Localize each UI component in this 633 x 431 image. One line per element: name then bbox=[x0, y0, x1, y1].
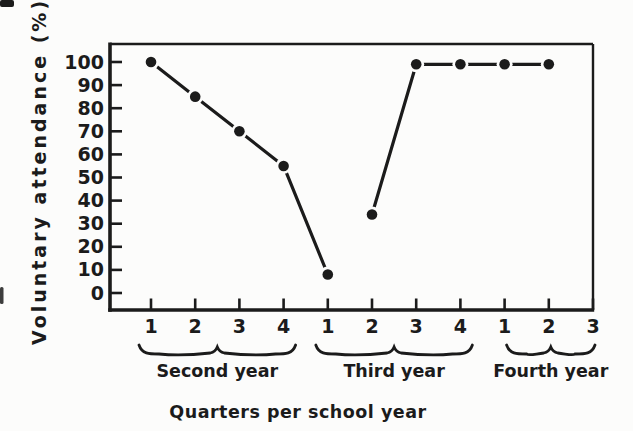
y-tick-label: 20 bbox=[78, 235, 104, 257]
y-axis-title: Voluntary attendance (%) bbox=[28, 15, 52, 345]
x-tick-label: 3 bbox=[410, 315, 423, 337]
line-chart-canvas: 010203040506070809010012341234123Second … bbox=[0, 0, 633, 431]
x-tick-label: 1 bbox=[498, 315, 511, 337]
x-tick-label: 1 bbox=[144, 315, 157, 337]
y-tick-label: 0 bbox=[91, 282, 104, 304]
x-tick-label: 3 bbox=[233, 315, 246, 337]
x-tick-label: 2 bbox=[365, 315, 378, 337]
x-tick-label: 2 bbox=[542, 315, 555, 337]
y-tick-label: 40 bbox=[78, 189, 104, 211]
year-group-label: Second year bbox=[156, 361, 278, 381]
year-group-brace bbox=[507, 345, 595, 355]
data-point bbox=[367, 209, 378, 220]
y-tick-label: 90 bbox=[78, 74, 104, 96]
x-tick-label: 4 bbox=[277, 315, 290, 337]
year-group-brace bbox=[139, 345, 296, 355]
y-tick-label: 70 bbox=[78, 120, 104, 142]
y-tick-label: 30 bbox=[78, 212, 104, 234]
y-tick-label: 100 bbox=[64, 51, 104, 73]
data-point bbox=[411, 59, 422, 70]
data-point bbox=[190, 91, 201, 102]
year-group-label: Fourth year bbox=[493, 361, 608, 381]
x-tick-label: 4 bbox=[454, 315, 467, 337]
data-line-segment bbox=[372, 64, 549, 214]
x-tick-label: 3 bbox=[586, 315, 599, 337]
y-tick-label: 80 bbox=[78, 97, 104, 119]
data-point bbox=[146, 57, 157, 68]
attendance-figure: 010203040506070809010012341234123Second … bbox=[0, 0, 633, 431]
y-tick-label: 60 bbox=[78, 143, 104, 165]
data-point bbox=[499, 59, 510, 70]
x-axis-title: Quarters per school year bbox=[138, 402, 458, 424]
x-tick-label: 1 bbox=[321, 315, 334, 337]
data-point bbox=[278, 161, 289, 172]
data-point bbox=[234, 126, 245, 137]
year-group-brace bbox=[316, 345, 473, 355]
data-line-segment bbox=[151, 62, 328, 275]
x-tick-label: 2 bbox=[189, 315, 202, 337]
data-point bbox=[544, 59, 555, 70]
data-point bbox=[323, 269, 334, 280]
y-tick-label: 10 bbox=[78, 258, 104, 280]
y-tick-label: 50 bbox=[78, 166, 104, 188]
scan-artifact bbox=[0, 0, 14, 7]
scan-artifact bbox=[0, 287, 4, 304]
data-point bbox=[455, 59, 466, 70]
year-group-label: Third year bbox=[343, 361, 445, 381]
